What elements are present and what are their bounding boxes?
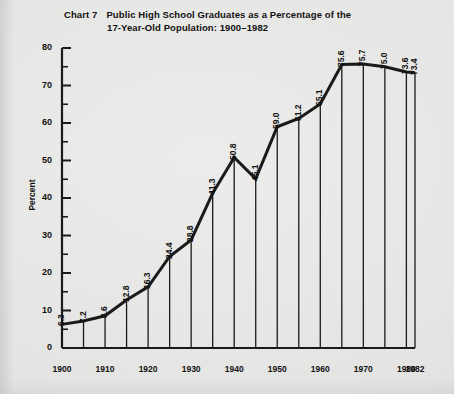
y-tick-label-70: 70	[30, 80, 52, 90]
data-point-label-1970: 75.7	[357, 50, 367, 67]
x-tick-label-1982: 1982	[397, 364, 433, 374]
x-tick-label-1950: 1950	[259, 364, 295, 374]
data-point-label-1945: 45.1	[250, 164, 260, 181]
data-point-label-1940: 50.8	[228, 143, 238, 160]
x-tick-label-1900: 1900	[44, 364, 80, 374]
y-tick-label-40: 40	[30, 192, 52, 202]
y-tick-label-30: 30	[30, 230, 52, 240]
data-point-label-1955: 61.2	[293, 104, 303, 121]
data-point-label-1950: 59.0	[271, 112, 281, 129]
data-point-label-1900: 6.3	[56, 315, 66, 327]
x-tick-label-1960: 1960	[302, 364, 338, 374]
data-point-label-1915: 12.8	[121, 285, 131, 302]
x-tick-label-1910: 1910	[87, 364, 123, 374]
data-point-label-1910: 8.6	[99, 306, 109, 318]
x-tick-label-1940: 1940	[216, 364, 252, 374]
data-point-label-1960: 65.1	[314, 89, 324, 106]
data-point-label-1920: 16.3	[142, 272, 152, 289]
x-tick-label-1920: 1920	[130, 364, 166, 374]
y-tick-label-50: 50	[30, 155, 52, 165]
data-point-label-1905: 7.2	[78, 311, 88, 323]
y-tick-label-0: 0	[30, 342, 52, 352]
x-tick-label-1970: 1970	[345, 364, 381, 374]
y-tick-label-20: 20	[30, 267, 52, 277]
data-point-label-1982: 73.4	[409, 58, 419, 75]
data-point-label-1965: 75.6	[336, 50, 346, 67]
y-tick-label-10: 10	[30, 305, 52, 315]
data-point-label-1935: 41.3	[207, 179, 217, 196]
data-point-label-1975: 75.0	[379, 52, 389, 69]
y-tick-label-60: 60	[30, 117, 52, 127]
data-line	[62, 64, 415, 324]
x-tick-label-1930: 1930	[173, 364, 209, 374]
data-point-label-1930: 28.8	[185, 225, 195, 242]
data-point-label-1925: 24.4	[164, 242, 174, 259]
y-tick-label-80: 80	[30, 42, 52, 52]
